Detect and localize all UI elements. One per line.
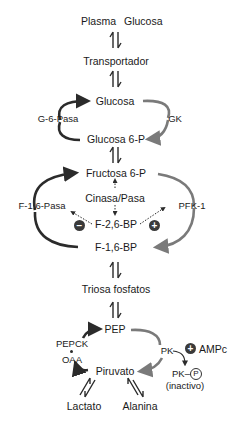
pfk1-arrow (158, 208, 194, 247)
pepck-arrow (83, 329, 98, 338)
gk-arrow (150, 120, 168, 139)
inhibition-minus-icon: − (74, 220, 85, 231)
phosphate-circle-icon: P (190, 368, 202, 380)
ampc-label: AMPc (199, 344, 227, 355)
pepck-enzyme: PEPCK (56, 339, 88, 349)
g6pasa-enzyme: G-6-Pasa (38, 114, 79, 124)
pk-phosphorylated-node: PK–P (172, 368, 202, 380)
lactato-node: Lactato (67, 401, 101, 412)
gluconeogenesis-glycolysis-diagram: Plasma Glucosa Transportador Glucosa G-6… (0, 0, 232, 423)
transportador-label: Transportador (83, 56, 149, 67)
pk-p-label: PK– (172, 368, 190, 379)
f16pasa-enzyme: F-1,6-Pasa (19, 201, 66, 211)
cinasa-pasa-enzyme: Cinasa/Pasa (85, 193, 145, 204)
pfk1-enzyme: PFK-1 (179, 201, 206, 211)
oaa-dot (70, 350, 73, 353)
f26bp-node: F-2,6-BP (95, 219, 137, 230)
oaa-node: OAA (62, 355, 82, 365)
ampc-plus-icon: + (185, 343, 196, 354)
glucosa6p-node: Glucosa 6-P (87, 134, 145, 145)
pk-arrow (142, 358, 162, 371)
equilibrium-arrows (80, 32, 143, 397)
alanina-node: Alanina (122, 401, 157, 412)
fructosa6p-node: Fructosa 6-P (86, 168, 146, 179)
pk-phosphorylation-arrow (173, 351, 185, 364)
f16bp-node: F-1,6-BP (95, 242, 137, 253)
pep-node: PEP (104, 324, 125, 335)
glucosa-node: Glucosa (96, 96, 135, 107)
triosa-fosfatos-node: Triosa fosfatos (82, 284, 150, 295)
plasma-glucosa-label: Glucosa (124, 16, 163, 27)
plasma-label: Plasma (81, 16, 116, 27)
pk-enzyme: PK (161, 346, 174, 356)
inactivo-label: (inactivo) (166, 381, 205, 391)
activation-plus-icon: + (149, 220, 160, 231)
gk-enzyme: GK (168, 114, 182, 124)
piruvato-node: Piruvato (96, 366, 135, 377)
